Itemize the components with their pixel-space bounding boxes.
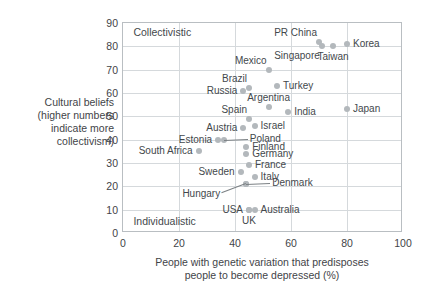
y-axis-title-line-2: (higher numbers xyxy=(6,109,114,122)
gridline-horizontal xyxy=(123,186,401,187)
data-point xyxy=(246,85,252,91)
y-tick-label: 40 xyxy=(106,134,118,146)
x-tick-label: 100 xyxy=(394,237,412,249)
data-point-label: Sweden xyxy=(198,167,234,177)
x-axis-title: People with genetic variation that predi… xyxy=(122,256,402,282)
data-point-label: Korea xyxy=(353,39,380,49)
data-point xyxy=(252,123,258,129)
data-point xyxy=(252,207,258,213)
data-point xyxy=(243,144,249,150)
data-point xyxy=(274,83,280,89)
data-point xyxy=(285,109,291,115)
data-point xyxy=(319,43,325,49)
y-tick-label: 30 xyxy=(106,157,118,169)
x-tick-label: 80 xyxy=(341,237,353,249)
data-point-label: UK xyxy=(242,216,256,226)
data-point-label: USA xyxy=(222,205,243,215)
y-tick-label: 90 xyxy=(106,17,118,29)
gridline-vertical xyxy=(179,23,180,231)
gridline-horizontal xyxy=(123,116,401,117)
data-point-label: France xyxy=(255,160,286,170)
data-point-label: Taiwan xyxy=(317,52,348,62)
data-point-label: Russia xyxy=(207,86,238,96)
y-axis-title-line-4: collectivism) xyxy=(6,135,114,148)
x-axis-title-line-2: people to become depressed (%) xyxy=(122,269,402,282)
y-tick-label: 10 xyxy=(106,204,118,216)
y-tick-label: 60 xyxy=(106,87,118,99)
label-leader-line xyxy=(222,183,246,193)
x-axis-title-line-1: People with genetic variation that predi… xyxy=(122,256,402,269)
data-point-label: Australia xyxy=(261,205,300,215)
data-point xyxy=(266,104,272,110)
data-point xyxy=(240,88,246,94)
data-point xyxy=(266,67,272,73)
data-point xyxy=(196,148,202,154)
data-point-label: Spain xyxy=(221,105,247,115)
data-point-label: Japan xyxy=(353,104,380,114)
data-point-label: Germany xyxy=(252,149,293,159)
x-tick-label: 0 xyxy=(120,237,126,249)
data-point-label: PR China xyxy=(274,28,317,38)
y-tick-label: 20 xyxy=(106,180,118,192)
label-leader-line xyxy=(246,183,270,185)
data-point-label: Austria xyxy=(206,123,237,133)
data-point-label: Turkey xyxy=(283,81,313,91)
gridline-horizontal xyxy=(123,70,401,71)
data-point xyxy=(240,125,246,131)
x-tick-label: 20 xyxy=(173,237,185,249)
data-point-label: Mexico xyxy=(235,56,267,66)
data-point xyxy=(344,41,350,47)
y-axis-title-line-1: Cultural beliefs xyxy=(6,96,114,109)
data-point xyxy=(246,162,252,168)
data-point-label: Argentina xyxy=(247,93,290,103)
data-point xyxy=(252,174,258,180)
x-tick-label: 60 xyxy=(285,237,297,249)
data-point xyxy=(238,169,244,175)
data-point xyxy=(246,207,252,213)
data-point-label: Estonia xyxy=(179,135,212,145)
quadrant-annotation: Individualistic xyxy=(133,215,195,227)
data-point-label: Singapore xyxy=(274,51,320,61)
y-tick-label: 50 xyxy=(106,110,118,122)
data-point-label: India xyxy=(294,107,316,117)
data-point xyxy=(344,106,350,112)
y-axis-title: Cultural beliefs (higher numbers indicat… xyxy=(6,96,114,148)
y-tick-label: 0 xyxy=(112,227,118,239)
x-tick-label: 40 xyxy=(229,237,241,249)
data-point xyxy=(215,137,221,143)
y-tick-label: 80 xyxy=(106,40,118,52)
y-tick-label: 70 xyxy=(106,64,118,76)
data-point xyxy=(246,116,252,122)
data-point xyxy=(330,43,336,49)
data-point-label: Denmark xyxy=(272,178,313,188)
data-point-label: Israel xyxy=(261,121,285,131)
data-point xyxy=(243,151,249,157)
quadrant-annotation: Collectivistic xyxy=(133,26,191,38)
data-point-label: South Africa xyxy=(139,146,193,156)
y-axis-title-line-3: indicate more xyxy=(6,122,114,135)
data-point-label: Brazil xyxy=(222,74,247,84)
plot-area: 0102030405060708090 020406080100 PR Chin… xyxy=(122,22,402,232)
data-point-label: Hungary xyxy=(182,189,220,199)
scatter-plot-figure: Cultural beliefs (higher numbers indicat… xyxy=(0,0,441,296)
